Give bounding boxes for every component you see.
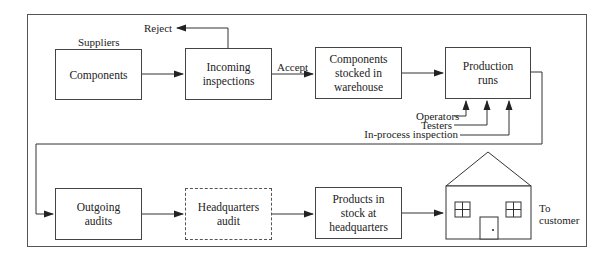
node-production-runs: Production runs [445,47,531,99]
node-outgoing-audits: Outgoing audits [55,188,142,240]
accept-label: Accept [277,61,308,73]
node-components-stocked: Components stocked in warehouse [315,47,402,99]
in-process-inspection-label: In-process inspection [350,128,458,140]
node-label: Headquarters audit [198,200,259,228]
node-label: Components [69,68,127,82]
house-icon [446,152,531,239]
node-headquarters-audit: Headquarters audit [185,188,272,240]
node-incoming-inspections: Incoming inspections [185,48,272,100]
node-label: Components stocked in warehouse [329,52,387,94]
node-label: Incoming inspections [203,60,255,88]
node-label: Outgoing audits [77,200,120,228]
arrow-reject [177,28,228,48]
node-components: Components [55,49,142,100]
node-products-in-stock: Products in stock at headquarters [315,187,402,239]
reject-label: Reject [144,22,172,34]
node-label: Production runs [463,59,513,87]
arrow-in-process-inspection [460,101,509,135]
node-label: Products in stock at headquarters [329,192,388,234]
to-customer-label: To customer [539,202,579,226]
suppliers-label: Suppliers [78,36,120,48]
